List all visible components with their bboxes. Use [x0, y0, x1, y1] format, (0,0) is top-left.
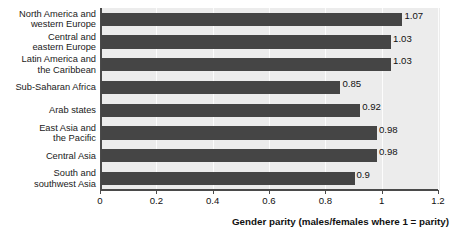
- bar-row: Central and eastern Europe1.03: [0, 31, 455, 54]
- bar-row: Sub-Saharan Africa0.85: [0, 76, 455, 99]
- bar: [101, 58, 391, 71]
- bar: [101, 149, 377, 162]
- category-label: Central and eastern Europe: [0, 32, 96, 53]
- bar-row: Latin America and the Caribbean1.03: [0, 54, 455, 77]
- category-label: Latin America and the Caribbean: [0, 54, 96, 75]
- x-tick-label: 0.6: [262, 195, 275, 206]
- bar: [101, 172, 355, 185]
- bar-container: [101, 35, 391, 48]
- bar: [101, 126, 377, 139]
- category-label: East Asia and the Pacific: [0, 123, 96, 144]
- gender-parity-bar-chart: North America and western Europe1.07Cent…: [0, 0, 455, 238]
- bar: [101, 35, 391, 48]
- x-tick-label: 0.8: [319, 195, 332, 206]
- bar: [101, 81, 340, 94]
- category-label: Sub-Saharan Africa: [0, 82, 96, 92]
- x-tick-label: 0.2: [150, 195, 163, 206]
- x-tick-label: 1: [379, 195, 384, 206]
- bar-container: [101, 126, 377, 139]
- x-axis-title: Gender parity (males/females where 1 = p…: [0, 216, 449, 227]
- bar: [101, 104, 360, 117]
- bar-rows: North America and western Europe1.07Cent…: [0, 8, 455, 190]
- bar-row: Central Asia0.98: [0, 145, 455, 168]
- x-tick-mark: [269, 190, 270, 194]
- category-label: North America and western Europe: [0, 9, 96, 30]
- bar-value-label: 0.92: [362, 101, 381, 112]
- bar-container: [101, 149, 377, 162]
- bar-value-label: 1.03: [393, 55, 412, 66]
- x-tick-mark: [100, 190, 101, 194]
- bar-container: [101, 172, 355, 185]
- bar-container: [101, 81, 340, 94]
- bar-row: South and southwest Asia0.9: [0, 167, 455, 190]
- bar-container: [101, 13, 402, 26]
- category-label: Central Asia: [0, 151, 96, 161]
- bar-value-label: 1.03: [393, 33, 412, 44]
- bar-container: [101, 58, 391, 71]
- bar-row: Arab states0.92: [0, 99, 455, 122]
- bar-value-label: 1.07: [404, 10, 423, 21]
- x-tick-mark: [213, 190, 214, 194]
- bar-value-label: 0.85: [342, 78, 361, 89]
- category-label: Arab states: [0, 105, 96, 115]
- x-tick-label: 0.4: [206, 195, 219, 206]
- bar-value-label: 0.9: [357, 169, 370, 180]
- bar-row: East Asia and the Pacific0.98: [0, 122, 455, 145]
- bar-row: North America and western Europe1.07: [0, 8, 455, 31]
- bar-value-label: 0.98: [379, 124, 398, 135]
- x-tick-label: 0: [97, 195, 102, 206]
- bar-value-label: 0.98: [379, 146, 398, 157]
- x-tick-mark: [156, 190, 157, 194]
- x-tick-mark: [325, 190, 326, 194]
- bar-container: [101, 104, 360, 117]
- x-tick-mark: [438, 190, 439, 194]
- category-label: South and southwest Asia: [0, 168, 96, 189]
- x-tick-label: 1.2: [431, 195, 444, 206]
- x-tick-mark: [382, 190, 383, 194]
- bar: [101, 13, 402, 26]
